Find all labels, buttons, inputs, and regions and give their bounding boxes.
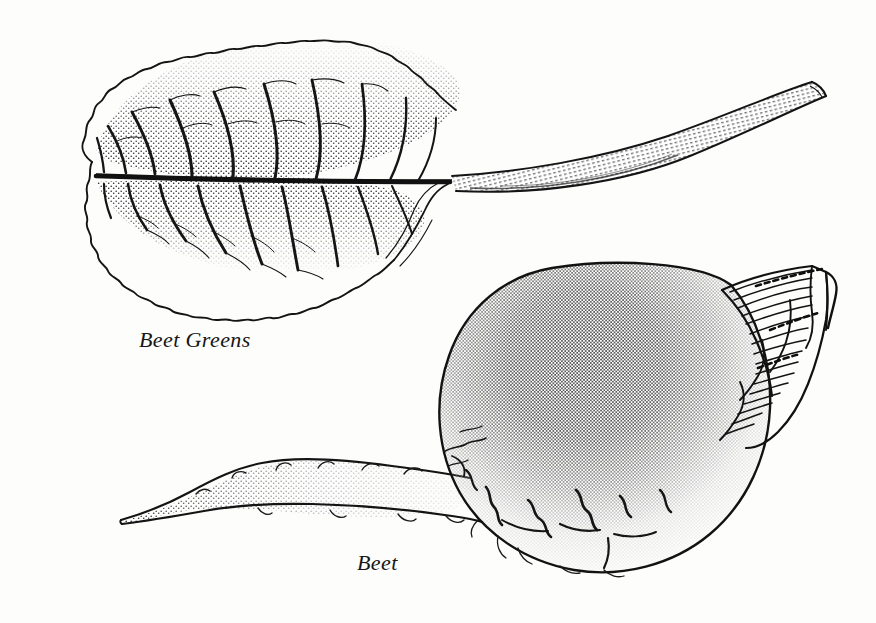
beet-bulb bbox=[400, 250, 820, 610]
label-beet-greens: Beet Greens bbox=[139, 327, 251, 353]
illustration-page: the beet is a biennial grown for its swo… bbox=[0, 0, 876, 623]
beet-illustration-plate bbox=[0, 0, 876, 623]
label-beet: Beet bbox=[357, 550, 398, 576]
